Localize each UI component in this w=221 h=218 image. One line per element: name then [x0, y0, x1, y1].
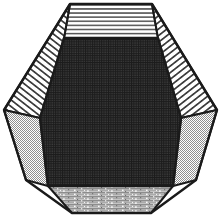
top-face [64, 4, 158, 38]
polyhedron-faces [4, 4, 217, 213]
front-hexagon-face [40, 38, 181, 186]
polyhedron-figure [0, 0, 221, 218]
figure-canvas [0, 0, 221, 218]
